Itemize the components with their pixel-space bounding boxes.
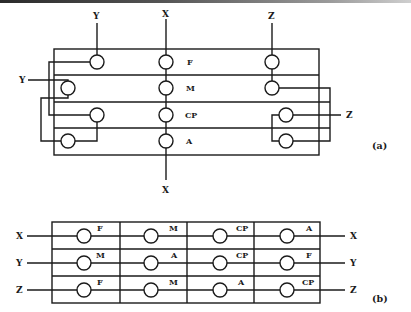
z-node-a	[279, 134, 293, 148]
row-right-label: Z	[350, 285, 357, 295]
row-label-m: M	[186, 83, 195, 93]
row-left-label: X	[16, 231, 23, 241]
y-wire-cp-a	[75, 122, 97, 141]
figure-a: F M CP A Y X Z X Y Z (a)	[18, 9, 387, 195]
node	[144, 229, 158, 243]
cell-label: F	[97, 223, 103, 233]
y-node-m	[61, 81, 75, 95]
cell-label: M	[169, 277, 178, 287]
cell-label: CP	[236, 250, 248, 260]
row-label-f: F	[187, 57, 193, 67]
row-right-label: X	[350, 231, 357, 241]
cell-label: M	[169, 223, 178, 233]
side-label-y: Y	[18, 75, 26, 85]
cell-label: CP	[302, 277, 314, 287]
row-label-cp: CP	[185, 110, 197, 120]
y-node-a	[61, 134, 75, 148]
top-label-y: Y	[92, 11, 100, 21]
row-left-label: Y	[15, 258, 23, 268]
x-node-cp	[159, 108, 173, 122]
node	[280, 256, 294, 270]
side-label-z: Z	[346, 110, 353, 120]
y-node-cp	[90, 108, 104, 122]
node	[213, 229, 227, 243]
node	[77, 256, 91, 270]
cell-label: F	[97, 277, 103, 287]
x-node-m	[159, 81, 173, 95]
z-node-cp	[279, 108, 293, 122]
caption-b: (b)	[372, 293, 388, 304]
y-left-lead	[28, 80, 68, 81]
table-row-y: Y Y M A CP F	[15, 250, 357, 270]
cell-label: F	[306, 250, 312, 260]
z-node-m	[265, 81, 279, 95]
node	[280, 283, 294, 297]
bottom-label-x: X	[162, 185, 169, 195]
node	[213, 283, 227, 297]
top-label-x: X	[162, 9, 169, 19]
cell-label: A	[170, 250, 178, 260]
row-right-label: Y	[349, 258, 357, 268]
figure-b: X X F M CP A Y Y M A CP F Z	[15, 222, 388, 304]
node	[280, 229, 294, 243]
row-left-label: Z	[16, 285, 23, 295]
cell-label: A	[237, 277, 245, 287]
z-node-f	[265, 55, 279, 69]
x-node-f	[159, 55, 173, 69]
cell-label: M	[96, 250, 105, 260]
caption-a: (a)	[372, 140, 387, 151]
cell-label: A	[305, 223, 313, 233]
diagram-canvas: F M CP A Y X Z X Y Z (a)	[0, 0, 411, 312]
node	[213, 256, 227, 270]
cell-label: CP	[236, 223, 248, 233]
node	[77, 229, 91, 243]
node	[144, 283, 158, 297]
node	[77, 283, 91, 297]
x-node-a	[159, 134, 173, 148]
row-label-a: A	[185, 136, 193, 146]
node	[144, 256, 158, 270]
top-label-z: Z	[268, 11, 275, 21]
y-node-f	[90, 55, 104, 69]
